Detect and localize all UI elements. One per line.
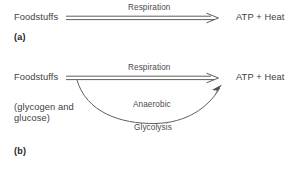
panel-b-product-label: ATP + Heat [236,73,284,82]
arrowhead-anaerobic [212,85,222,96]
panel-a-arrow-label: Respiration [128,4,171,12]
panel-a-source-label: Foodstuffs [14,13,58,22]
figure-container: Foodstuffs Respiration ATP + Heat (a) Fo… [0,0,300,172]
panel-a-respiration-arrow [66,13,219,23]
panel-b-source-label: Foodstuffs [14,73,58,82]
panel-b-respiration-arrow [66,73,219,83]
diagram-lines-layer [0,0,300,172]
panel-b-source-sublabel-line2: glucose) [14,114,50,123]
panel-b-arrow-label: Respiration [128,64,171,72]
panel-b-curve-label-line2: Glycolysis [134,124,172,132]
arrowhead-b [207,73,219,83]
arrowhead-a [207,13,219,23]
panel-a-product-label: ATP + Heat [236,13,284,22]
panel-b-tag: (b) [14,147,26,156]
panel-b-curve-label-line1: Anaerobic [133,101,171,109]
panel-a-tag: (a) [14,33,26,42]
panel-b-source-sublabel-line1: (glycogen and [14,103,74,112]
